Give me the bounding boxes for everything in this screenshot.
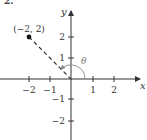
point-label: (−2, 2) [13,24,45,34]
point-marker [27,35,32,40]
x-tick-label: 1 [90,85,96,95]
problem-number: 2. [4,0,13,6]
x-axis-label: x [140,80,146,91]
coordinate-diagram: 2. −2 −1 1 2 2 1 −1 −2 x y (−2, 2) θ [0,0,147,140]
y-axis-label: y [60,6,67,17]
y-tick-label: −1 [52,94,65,104]
y-tick-label: 2 [59,32,65,42]
x-tick-label: −2 [22,85,35,95]
angle-label: θ [81,56,87,66]
y-tick-label: 1 [59,53,65,63]
y-tick-label: −2 [52,116,65,126]
x-tick-label: 2 [111,85,117,95]
